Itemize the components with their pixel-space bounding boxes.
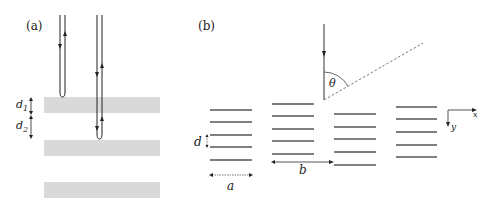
incident-beam	[322, 24, 423, 100]
panel-a-label: (a)	[26, 20, 43, 32]
d2-subscript: 2	[23, 125, 28, 134]
d2-label: d2	[16, 120, 28, 134]
layer-2	[44, 140, 160, 156]
a-label: a	[227, 180, 234, 192]
arrow-up-icon	[100, 116, 104, 121]
theta-label: θ	[329, 78, 336, 89]
arrow-down-icon	[95, 126, 99, 131]
scattered-beam-dashed	[324, 43, 423, 100]
a-dimension	[209, 173, 253, 177]
panel-b-label: (b)	[198, 20, 215, 32]
wave-path-1	[60, 15, 65, 97]
line-stack-4	[396, 107, 437, 157]
panel-a	[29, 15, 160, 198]
arrow-up-icon	[63, 31, 67, 36]
d1-subscript: 1	[23, 104, 28, 113]
layer-3	[44, 182, 160, 198]
d1-label: d1	[16, 99, 28, 113]
d1-symbol: d	[16, 98, 23, 111]
y-axis-label: y	[451, 123, 456, 132]
line-stack-1	[210, 110, 252, 160]
arrow-down-icon	[58, 44, 62, 49]
line-stack-2	[272, 104, 314, 154]
arrow-down-icon	[322, 51, 326, 57]
y-axis-arrow-icon	[446, 122, 450, 127]
x-axis-label: x	[473, 111, 478, 119]
diagram-figure	[0, 0, 493, 207]
d-label: d	[194, 136, 202, 148]
panel-b	[210, 104, 437, 165]
d-dimension	[206, 134, 209, 148]
arrow-up-icon	[100, 63, 104, 68]
d2-symbol: d	[16, 119, 23, 132]
arrow-down-icon	[95, 72, 99, 77]
theta-arc	[324, 72, 348, 86]
b-label: b	[299, 164, 307, 176]
line-stack-3	[334, 114, 376, 165]
d2-dimension	[29, 115, 33, 139]
d1-dimension	[29, 97, 33, 115]
